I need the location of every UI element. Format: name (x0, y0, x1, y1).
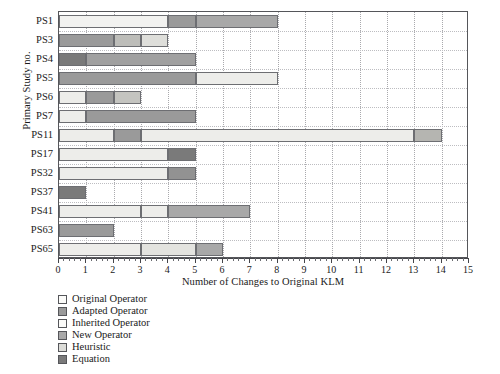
legend-item[interactable]: Original Operator (58, 293, 258, 305)
legend-label: Inherited Operator (72, 317, 150, 329)
y-axis-tick-label-ps41: PS41 (0, 205, 53, 217)
bar-segment (196, 243, 223, 256)
x-axis-minor-tick (397, 258, 398, 261)
bar-segment (86, 91, 113, 104)
x-axis-tick-label: 4 (155, 264, 179, 275)
x-axis-minor-tick (381, 258, 382, 261)
gridline-horizontal (59, 126, 467, 127)
x-axis-tick (140, 258, 141, 263)
x-axis-minor-tick (173, 258, 174, 261)
x-axis-tick-label: 6 (210, 264, 234, 275)
legend-swatch-icon (58, 343, 67, 352)
x-axis-minor-tick (348, 258, 349, 261)
x-axis-minor-tick (299, 258, 300, 261)
x-axis-minor-tick (446, 258, 447, 261)
gridline-horizontal (59, 240, 467, 241)
bar-segment (168, 205, 250, 218)
x-axis-minor-tick (124, 258, 125, 261)
bar-segment (59, 167, 168, 180)
bar-row (59, 186, 468, 199)
gridline-horizontal (59, 88, 467, 89)
legend-label: New Operator (72, 329, 132, 341)
bar-segment (59, 224, 114, 237)
legend-label: Original Operator (72, 293, 147, 305)
x-axis-tick (359, 258, 360, 263)
x-axis-minor-tick (320, 258, 321, 261)
x-axis-minor-tick (266, 258, 267, 261)
x-axis-minor-tick (315, 258, 316, 261)
x-axis-minor-tick (282, 258, 283, 261)
legend-label: Heuristic (72, 341, 111, 353)
x-axis-minor-tick (184, 258, 185, 261)
legend-item[interactable]: New Operator (58, 329, 258, 341)
x-axis-minor-tick (435, 258, 436, 261)
x-axis-minor-tick (135, 258, 136, 261)
x-axis-minor-tick (430, 258, 431, 261)
x-axis-minor-tick (178, 258, 179, 261)
x-axis-minor-tick (452, 258, 453, 261)
x-axis-tick (222, 258, 223, 263)
bar-segment (196, 15, 278, 28)
gridline-horizontal (59, 202, 467, 203)
x-axis-tick-label: 3 (128, 264, 152, 275)
x-axis-minor-tick (145, 258, 146, 261)
x-axis-minor-tick (211, 258, 212, 261)
x-axis-tick-label: 12 (374, 264, 398, 275)
bar-segment (59, 186, 86, 199)
x-axis-minor-tick (102, 258, 103, 261)
x-axis-tick (277, 258, 278, 263)
x-axis-minor-tick (107, 258, 108, 261)
x-axis-minor-tick (227, 258, 228, 261)
bar-row (59, 224, 468, 237)
x-axis-tick-label: 15 (456, 264, 480, 275)
legend: Original OperatorAdapted OperatorInherit… (58, 293, 258, 365)
x-axis-minor-tick (402, 258, 403, 261)
legend-item[interactable]: Inherited Operator (58, 317, 258, 329)
y-axis-tick-label-ps37: PS37 (0, 186, 53, 198)
gridline-horizontal (59, 145, 467, 146)
y-axis-tick-label-ps63: PS63 (0, 224, 53, 236)
bar-row (59, 205, 468, 218)
x-axis-tick-label: 14 (429, 264, 453, 275)
x-axis-minor-tick (238, 258, 239, 261)
legend-item[interactable]: Equation (58, 353, 258, 365)
x-axis-minor-tick (189, 258, 190, 261)
x-axis-minor-tick (364, 258, 365, 261)
bar-row (59, 110, 468, 123)
bar-row (59, 15, 468, 28)
legend-swatch-icon (58, 331, 67, 340)
bar-segment (59, 205, 141, 218)
legend-swatch-icon (58, 295, 67, 304)
legend-item[interactable]: Adapted Operator (58, 305, 258, 317)
bar-segment (141, 129, 414, 142)
x-axis-minor-tick (151, 258, 152, 261)
bar-segment (168, 148, 195, 161)
legend-item[interactable]: Heuristic (58, 341, 258, 353)
x-axis-title: Number of Changes to Original KLM (58, 276, 468, 287)
x-axis-tick (441, 258, 442, 263)
x-axis-tick-label: 13 (401, 264, 425, 275)
bar-segment (59, 148, 168, 161)
x-axis-tick-label: 8 (265, 264, 289, 275)
bar-row (59, 34, 468, 47)
x-axis-minor-tick (342, 258, 343, 261)
x-axis-minor-tick (217, 258, 218, 261)
x-axis-minor-tick (457, 258, 458, 261)
x-axis-minor-tick (337, 258, 338, 261)
x-axis-minor-tick (233, 258, 234, 261)
x-axis-minor-tick (370, 258, 371, 261)
x-axis-tick-label: 11 (347, 264, 371, 275)
x-axis-minor-tick (63, 258, 64, 261)
x-axis-minor-tick (375, 258, 376, 261)
bar-segment (114, 129, 141, 142)
x-axis-minor-tick (91, 258, 92, 261)
x-axis-minor-tick (391, 258, 392, 261)
plot-area (58, 11, 468, 258)
gridline-horizontal (59, 164, 467, 165)
x-axis-tick (85, 258, 86, 263)
x-axis-tick (195, 258, 196, 263)
bar-segment (141, 205, 168, 218)
bar-segment (59, 110, 86, 123)
x-axis-tick-label: 2 (101, 264, 125, 275)
x-axis-tick (249, 258, 250, 263)
